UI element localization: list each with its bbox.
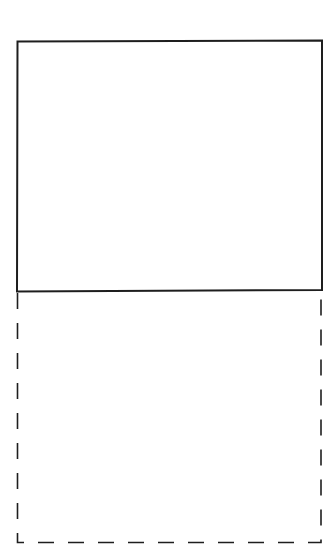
dashed-extension-outline xyxy=(18,293,322,543)
solid-rectangle xyxy=(17,41,322,292)
diagram-canvas xyxy=(0,0,336,557)
